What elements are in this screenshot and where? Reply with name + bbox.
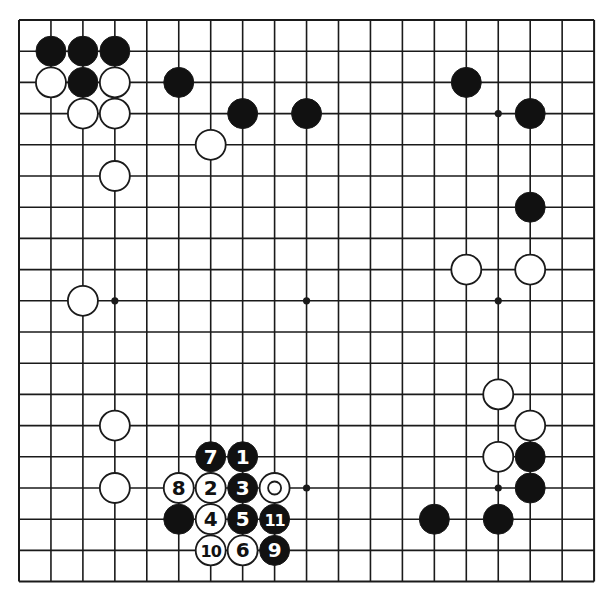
star-point	[303, 484, 310, 491]
black-stone	[164, 504, 194, 534]
white-stone	[100, 161, 130, 191]
move-number-label: 4	[204, 507, 218, 531]
white-stone	[451, 255, 481, 285]
star-point	[303, 297, 310, 304]
move-number-label: 9	[268, 538, 282, 562]
black-stone	[68, 67, 98, 97]
white-stone	[68, 99, 98, 129]
white-stone: 2	[196, 473, 226, 503]
black-stone	[68, 36, 98, 66]
go-board-diagram: 1234567891011	[0, 0, 609, 600]
black-stone: 1	[228, 442, 258, 472]
star-point	[495, 297, 502, 304]
black-stone	[483, 504, 513, 534]
black-stone	[292, 99, 322, 129]
black-stone: 5	[228, 504, 258, 534]
white-stone	[515, 255, 545, 285]
black-stone	[515, 473, 545, 503]
black-stone	[164, 67, 194, 97]
black-stone: 3	[228, 473, 258, 503]
black-stone	[451, 67, 481, 97]
white-stone	[36, 67, 66, 97]
white-stone: 6	[228, 535, 258, 565]
move-number-label: 8	[172, 476, 186, 500]
black-stone: 11	[260, 504, 290, 534]
move-number-label: 7	[204, 445, 218, 469]
black-stone	[515, 99, 545, 129]
white-stone	[100, 67, 130, 97]
white-stone	[196, 130, 226, 160]
move-number-label: 3	[236, 476, 250, 500]
white-stone	[100, 473, 130, 503]
black-stone	[419, 504, 449, 534]
white-stone	[483, 442, 513, 472]
black-stone	[36, 36, 66, 66]
black-stone	[100, 36, 130, 66]
move-number-label: 1	[236, 445, 250, 469]
white-stone	[483, 379, 513, 409]
black-stone: 9	[260, 535, 290, 565]
black-stone	[515, 442, 545, 472]
white-stone	[100, 99, 130, 129]
star-point	[495, 110, 502, 117]
move-number-label: 10	[201, 542, 222, 561]
white-stone: 4	[196, 504, 226, 534]
move-number-label: 11	[264, 511, 285, 530]
white-stone	[260, 473, 290, 503]
move-number-label: 2	[204, 476, 218, 500]
black-stone	[228, 99, 258, 129]
white-stone	[68, 286, 98, 316]
white-stone	[100, 411, 130, 441]
white-stone: 10	[196, 535, 226, 565]
star-point	[495, 484, 502, 491]
white-stone: 8	[164, 473, 194, 503]
black-stone	[515, 192, 545, 222]
black-stone: 7	[196, 442, 226, 472]
move-number-label: 5	[236, 507, 250, 531]
move-number-label: 6	[236, 538, 250, 562]
star-point	[111, 297, 118, 304]
white-stone	[515, 411, 545, 441]
